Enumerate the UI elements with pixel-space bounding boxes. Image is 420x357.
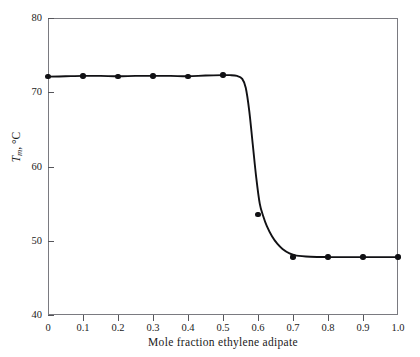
x-axis-title: Mole fraction ethylene adipate <box>48 336 398 348</box>
data-point <box>325 254 330 259</box>
y-axis-unit: °C <box>10 132 22 144</box>
x-tick-mark <box>223 315 224 321</box>
x-tick-label: 0 <box>28 322 68 333</box>
x-tick-mark <box>188 315 189 321</box>
y-axis-symbol: T <box>10 156 22 162</box>
y-tick-label: 40 <box>8 310 42 320</box>
data-point <box>150 73 155 78</box>
data-point <box>185 74 190 79</box>
x-tick-mark <box>83 315 84 321</box>
x-tick-mark <box>118 315 119 321</box>
y-axis-title: Tm, °C <box>10 112 24 182</box>
data-point <box>80 73 85 78</box>
y-tick-mark <box>48 241 54 242</box>
data-point <box>395 254 400 259</box>
x-tick-mark <box>293 315 294 321</box>
y-tick-mark <box>48 167 54 168</box>
figure-container: · · · 4050607080 00.10.20.30.40.50.60.70… <box>0 0 420 357</box>
y-axis-separator: , <box>10 144 22 150</box>
y-tick-label: 70 <box>8 87 42 97</box>
x-tick-label: 0.7 <box>273 322 313 333</box>
y-axis-subscript: m <box>14 150 24 156</box>
data-point <box>115 74 120 79</box>
x-tick-label: 1.0 <box>378 322 418 333</box>
x-tick-mark <box>258 315 259 321</box>
y-tick-mark <box>48 18 54 19</box>
data-point <box>360 254 365 259</box>
y-tick-label: 80 <box>8 13 42 23</box>
x-tick-label: 0.8 <box>308 322 348 333</box>
plot-frame <box>48 18 398 315</box>
x-tick-label: 0.5 <box>203 322 243 333</box>
y-tick-mark <box>48 92 54 93</box>
data-point <box>220 72 225 77</box>
data-point <box>290 254 295 259</box>
y-tick-mark <box>48 315 54 316</box>
x-tick-label: 0.1 <box>63 322 103 333</box>
top-caption-remnant: · · · <box>0 0 420 1</box>
y-tick-label: 50 <box>8 236 42 246</box>
x-tick-label: 0.3 <box>133 322 173 333</box>
data-point <box>45 74 50 79</box>
x-tick-label: 0.9 <box>343 322 383 333</box>
x-tick-label: 0.2 <box>98 322 138 333</box>
x-tick-mark <box>363 315 364 321</box>
x-tick-label: 0.4 <box>168 322 208 333</box>
x-tick-mark <box>328 315 329 321</box>
x-tick-label: 0.6 <box>238 322 278 333</box>
x-tick-mark <box>153 315 154 321</box>
